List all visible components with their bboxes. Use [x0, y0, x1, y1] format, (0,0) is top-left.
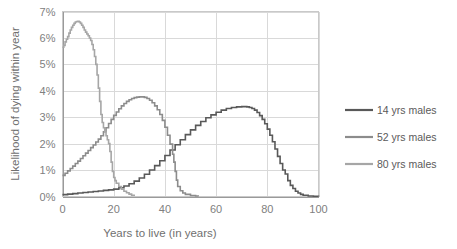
y-tick-label-0: 0%: [40, 191, 56, 203]
y-axis-title: Likelihood of dying within year: [9, 27, 21, 181]
mortality-likelihood-chart: 0%1%2%3%4%5%6%7% 020406080100 Years to l…: [0, 0, 457, 249]
y-tick-label-3: 3%: [40, 111, 56, 123]
x-tick-label-3: 60: [210, 203, 222, 215]
legend-label-0: 14 yrs males: [377, 104, 437, 116]
x-tick-label-1: 20: [108, 203, 120, 215]
x-tick-label-0: 0: [59, 203, 65, 215]
x-tick-label-2: 40: [159, 203, 171, 215]
legend-label-2: 80 yrs males: [377, 158, 437, 170]
y-tick-label-2: 2%: [40, 138, 56, 150]
y-tick-label-5: 5%: [40, 58, 56, 70]
y-tick-label-1: 1%: [40, 164, 56, 176]
y-tick-label-4: 4%: [40, 85, 56, 97]
x-axis-title: Years to live (in years): [103, 227, 217, 239]
x-tick-label-4: 80: [261, 203, 273, 215]
legend-label-1: 52 yrs males: [377, 131, 437, 143]
x-tick-label-5: 100: [309, 203, 327, 215]
y-tick-label-7: 7%: [40, 6, 56, 18]
y-tick-label-6: 6%: [40, 32, 56, 44]
